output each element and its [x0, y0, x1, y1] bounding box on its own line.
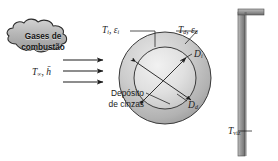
surroundings-temp-label: Tviz — [228, 126, 240, 137]
combustion-gases-label: Gases de combustão — [12, 32, 74, 53]
gas-flow-arrows — [63, 60, 103, 82]
cloud-label-line2: combustão — [21, 43, 65, 52]
ash-deposit-label: Depósito de cinzas — [86, 88, 144, 110]
cloud-label-line1: Gases de — [25, 32, 61, 41]
free-stream-label: T∞, h̄ — [32, 67, 51, 78]
ash-deposit-line1: Depósito — [111, 88, 144, 98]
flame-side-label: Ti, εi — [102, 25, 119, 36]
surrounding-wall — [238, 9, 264, 156]
deposit-diameter-label: Dd — [188, 100, 198, 111]
inner-diameter-label: Di — [194, 49, 203, 60]
ash-deposit-line2: de cinzas — [109, 99, 144, 109]
deposit-side-label: Td, εd — [178, 25, 198, 36]
heat-transfer-figure: Gases de combustão T∞, h̄ Ti, εi Td, εd … — [0, 0, 278, 161]
